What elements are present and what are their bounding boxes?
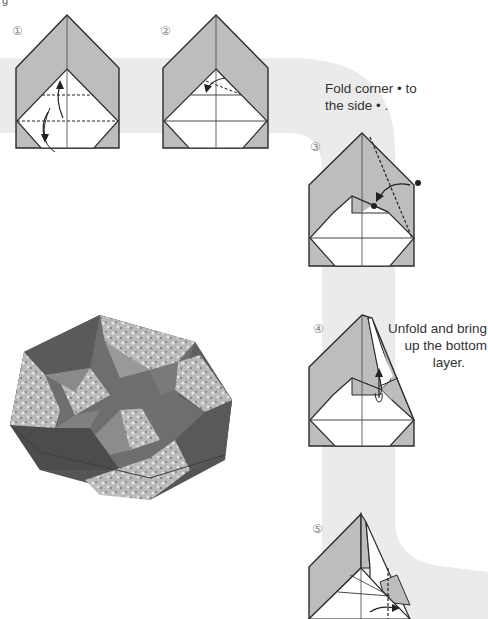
finished-box-photo	[0, 0, 488, 619]
